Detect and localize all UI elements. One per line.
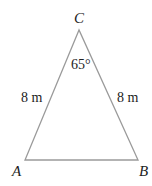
angle-label-c: 65°: [71, 57, 91, 72]
side-label-ca: 8 m: [21, 90, 43, 105]
triangle-figure: C A B 8 m 8 m 65°: [0, 0, 152, 186]
vertex-label-c: C: [74, 10, 85, 26]
vertex-label-b: B: [139, 163, 148, 179]
triangle-diagram: C A B 8 m 8 m 65°: [0, 0, 152, 186]
vertex-label-a: A: [11, 163, 22, 179]
side-label-cb: 8 m: [117, 90, 139, 105]
